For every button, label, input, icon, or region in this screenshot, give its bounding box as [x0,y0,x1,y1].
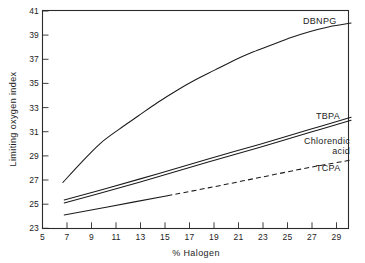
x-tick-29: 29 [332,232,342,242]
series-label-tcpa: TCPA [316,163,341,173]
series-labels-group: DBNPG TBPA Chlorendic acid TCPA [303,16,350,173]
y-tick-29: 29 [29,151,39,161]
series-line-dbnpg [63,23,351,182]
series-line-tbpa [64,117,351,200]
y-tick-31: 31 [29,127,39,137]
y-tick-41: 41 [29,6,39,16]
chart-figure: 41 39 37 35 33 31 29 27 25 23 [0,0,365,263]
x-tick-21: 21 [234,232,244,242]
line-chart-svg: 41 39 37 35 33 31 29 27 25 23 [0,0,365,263]
plot-frame [43,11,349,229]
y-axis-title: Limiting oxygen index [8,71,18,166]
y-axis-tick-labels: 41 39 37 35 33 31 29 27 25 23 [29,6,39,233]
x-tick-5: 5 [40,232,45,242]
y-tick-25: 25 [29,199,39,209]
x-tick-17: 17 [185,232,195,242]
x-tick-27: 27 [307,232,317,242]
x-axis-title: % Halogen [172,248,220,258]
y-tick-23: 23 [29,223,39,233]
x-axis-tickmarks [43,222,337,228]
series-label-dbnpg: DBNPG [303,16,337,26]
y-axis-tickmarks [43,11,49,228]
y-tick-35: 35 [29,78,39,88]
x-tick-13: 13 [136,232,146,242]
x-tick-15: 15 [160,232,170,242]
x-tick-25: 25 [283,232,293,242]
y-tick-27: 27 [29,175,39,185]
series-line-chlorendic-acid [64,120,351,203]
x-tick-23: 23 [258,232,268,242]
x-tick-9: 9 [89,232,94,242]
x-axis-tick-labels: 5 7 9 11 13 15 17 19 21 23 25 27 29 [40,232,341,242]
x-tick-7: 7 [65,232,70,242]
series-label-chlorendic-acid-line1: Chlorendic [304,136,350,146]
series-label-tbpa: TBPA [316,111,340,121]
x-tick-19: 19 [209,232,219,242]
data-series-group [63,23,351,215]
x-tick-11: 11 [111,232,120,242]
series-label-chlorendic-acid-line2: acid [332,146,350,156]
y-tick-37: 37 [29,54,39,64]
y-tick-33: 33 [29,103,39,113]
y-tick-39: 39 [29,30,39,40]
